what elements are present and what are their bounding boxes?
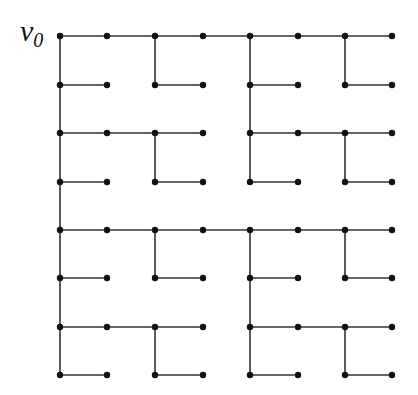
vertex bbox=[342, 33, 348, 39]
vertex bbox=[57, 275, 63, 281]
vertex bbox=[152, 372, 158, 378]
vertex bbox=[247, 227, 253, 233]
vertex bbox=[389, 275, 395, 281]
vertex bbox=[152, 130, 158, 136]
root-vertex bbox=[57, 33, 63, 39]
vertex bbox=[152, 33, 158, 39]
tree-edges bbox=[60, 36, 392, 375]
vertex bbox=[104, 179, 110, 185]
vertex bbox=[152, 82, 158, 88]
vertex bbox=[57, 372, 63, 378]
vertex bbox=[295, 33, 301, 39]
vertex bbox=[104, 227, 110, 233]
tree-diagram bbox=[0, 0, 418, 395]
vertex bbox=[200, 324, 206, 330]
vertex bbox=[389, 82, 395, 88]
vertex bbox=[200, 227, 206, 233]
vertex bbox=[389, 130, 395, 136]
vertex bbox=[152, 324, 158, 330]
vertex bbox=[247, 372, 253, 378]
vertex bbox=[295, 82, 301, 88]
vertex bbox=[104, 33, 110, 39]
vertex bbox=[247, 324, 253, 330]
vertex bbox=[104, 130, 110, 136]
vertex bbox=[247, 33, 253, 39]
vertex bbox=[200, 82, 206, 88]
vertex bbox=[152, 179, 158, 185]
vertex bbox=[200, 275, 206, 281]
vertex bbox=[57, 82, 63, 88]
vertex bbox=[57, 324, 63, 330]
vertex bbox=[247, 82, 253, 88]
vertex bbox=[295, 324, 301, 330]
vertex bbox=[200, 372, 206, 378]
vertex bbox=[342, 179, 348, 185]
vertex bbox=[295, 130, 301, 136]
vertex bbox=[342, 130, 348, 136]
vertex bbox=[295, 372, 301, 378]
vertex bbox=[389, 372, 395, 378]
vertex bbox=[247, 130, 253, 136]
vertex bbox=[104, 324, 110, 330]
vertex bbox=[342, 275, 348, 281]
vertex bbox=[152, 275, 158, 281]
vertex bbox=[247, 275, 253, 281]
vertex bbox=[104, 82, 110, 88]
vertex bbox=[152, 227, 158, 233]
vertex bbox=[295, 227, 301, 233]
vertex bbox=[389, 33, 395, 39]
vertex bbox=[104, 275, 110, 281]
vertex bbox=[342, 227, 348, 233]
vertex bbox=[247, 179, 253, 185]
vertex bbox=[104, 372, 110, 378]
vertex bbox=[57, 130, 63, 136]
vertex bbox=[295, 179, 301, 185]
vertex bbox=[57, 227, 63, 233]
vertex bbox=[342, 324, 348, 330]
vertex bbox=[200, 33, 206, 39]
vertex bbox=[200, 130, 206, 136]
vertex bbox=[389, 179, 395, 185]
vertex bbox=[389, 324, 395, 330]
vertex bbox=[389, 227, 395, 233]
vertex bbox=[342, 82, 348, 88]
vertex bbox=[295, 275, 301, 281]
vertex bbox=[342, 372, 348, 378]
tree-nodes bbox=[57, 33, 395, 378]
vertex bbox=[57, 179, 63, 185]
vertex bbox=[200, 179, 206, 185]
